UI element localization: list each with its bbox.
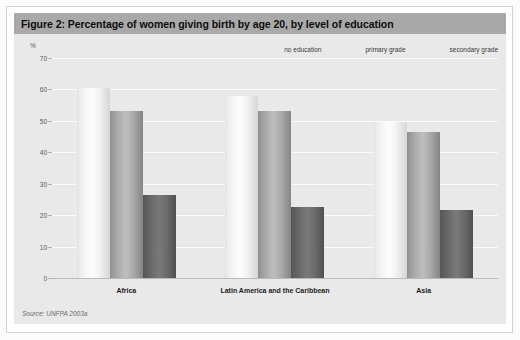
y-tick-mark-0: [48, 278, 52, 279]
legend-swatch-no-education: [254, 45, 280, 53]
legend-swatch-primary-grade: [335, 45, 361, 53]
y-tick-label-50: 50: [40, 117, 47, 124]
y-tick-label-30: 30: [40, 180, 47, 187]
y-tick-label-20: 20: [40, 212, 47, 219]
figure-root: Figure 2: Percentage of women giving bir…: [0, 0, 520, 340]
bar-group-bars: [201, 58, 350, 278]
legend-label-no-education: no education: [284, 46, 321, 53]
figure-title-band: Figure 2: Percentage of women giving bir…: [14, 13, 506, 34]
legend-item-no-education[interactable]: no education: [254, 45, 321, 53]
legend-label-primary-grade: primary grade: [365, 46, 405, 53]
bar-primary-grade[interactable]: [258, 111, 291, 278]
legend-label-secondary-grade: secondary grade: [450, 46, 498, 53]
y-axis-unit-label: %: [30, 42, 36, 49]
legend-item-secondary-grade[interactable]: secondary grade: [420, 45, 498, 53]
gridline-0: [52, 278, 498, 279]
bar-group-bars: [52, 58, 201, 278]
bar-primary-grade[interactable]: [110, 111, 143, 278]
bar-groups: AfricaLatin America and the CaribbeanAsi…: [52, 58, 498, 278]
bar-no-education[interactable]: [374, 122, 407, 278]
y-tick-label-70: 70: [40, 55, 47, 62]
bar-secondary-grade[interactable]: [291, 207, 324, 278]
bar-secondary-grade[interactable]: [143, 195, 176, 278]
chart-legend: no education primary grade secondary gra…: [254, 45, 498, 53]
bar-primary-grade[interactable]: [407, 132, 440, 278]
x-axis-label-2: Asia: [349, 287, 498, 294]
bar-group-latin-america-and-the-caribbean: Latin America and the Caribbean: [201, 58, 350, 278]
bar-no-education[interactable]: [225, 96, 258, 278]
bar-group-asia: Asia: [349, 58, 498, 278]
x-axis-label-0: Africa: [52, 287, 201, 294]
bar-group-bars: [349, 58, 498, 278]
legend-swatch-secondary-grade: [420, 45, 446, 53]
plot-area: 010203040506070 AfricaLatin America and …: [52, 58, 498, 278]
y-tick-label-60: 60: [40, 86, 47, 93]
legend-item-primary-grade[interactable]: primary grade: [335, 45, 405, 53]
bar-group-africa: Africa: [52, 58, 201, 278]
bar-secondary-grade[interactable]: [440, 210, 473, 278]
figure-title: Figure 2: Percentage of women giving bir…: [14, 18, 394, 30]
x-axis-label-1: Latin America and the Caribbean: [201, 287, 350, 294]
chart-panel: % no education primary grade secondary g…: [14, 34, 506, 324]
figure-source: Source: UNFPA 2003a: [22, 310, 87, 317]
y-tick-label-40: 40: [40, 149, 47, 156]
bar-no-education[interactable]: [77, 88, 110, 278]
y-tick-label-0: 0: [43, 275, 47, 282]
y-tick-label-10: 10: [40, 243, 47, 250]
